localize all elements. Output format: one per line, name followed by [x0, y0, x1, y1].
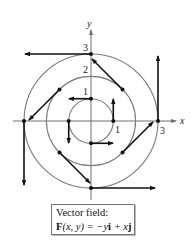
- formula-j: j: [128, 221, 132, 232]
- y-tick-1: 1: [83, 86, 88, 97]
- vector-base-point: [22, 119, 26, 123]
- vector-base-point: [67, 119, 71, 123]
- vector-base-point: [58, 88, 62, 92]
- vector-arrow: [92, 59, 123, 90]
- vector-arrow: [29, 90, 60, 121]
- y-tick-2: 2: [83, 64, 88, 75]
- vector-base-point: [121, 88, 125, 92]
- vector-base-point: [89, 186, 93, 190]
- vector-base-point: [89, 97, 93, 101]
- y-axis-label: y: [86, 18, 92, 29]
- y-tick-3: 3: [83, 42, 88, 53]
- caption-title: Vector field:: [56, 206, 134, 220]
- x-tick-3: 3: [160, 125, 165, 136]
- vector-base-point: [111, 119, 115, 123]
- vector-base-point: [58, 151, 62, 155]
- vector-arrow: [123, 122, 154, 153]
- vector-field-caption: Vector field: F(x, y) = −yi + xj: [51, 204, 135, 235]
- vector-base-point: [156, 119, 160, 123]
- vector-arrow: [60, 153, 91, 184]
- vector-base-point: [121, 151, 125, 155]
- formula-plus-x: + x: [111, 221, 128, 232]
- x-tick-1: 1: [115, 124, 120, 135]
- caption-formula: F(x, y) = −yi + xj: [56, 220, 134, 234]
- vector-base-point: [89, 141, 93, 145]
- vector-base-point: [89, 52, 93, 56]
- formula-args: (x, y) = −y: [62, 221, 108, 232]
- x-axis-label: x: [179, 115, 185, 126]
